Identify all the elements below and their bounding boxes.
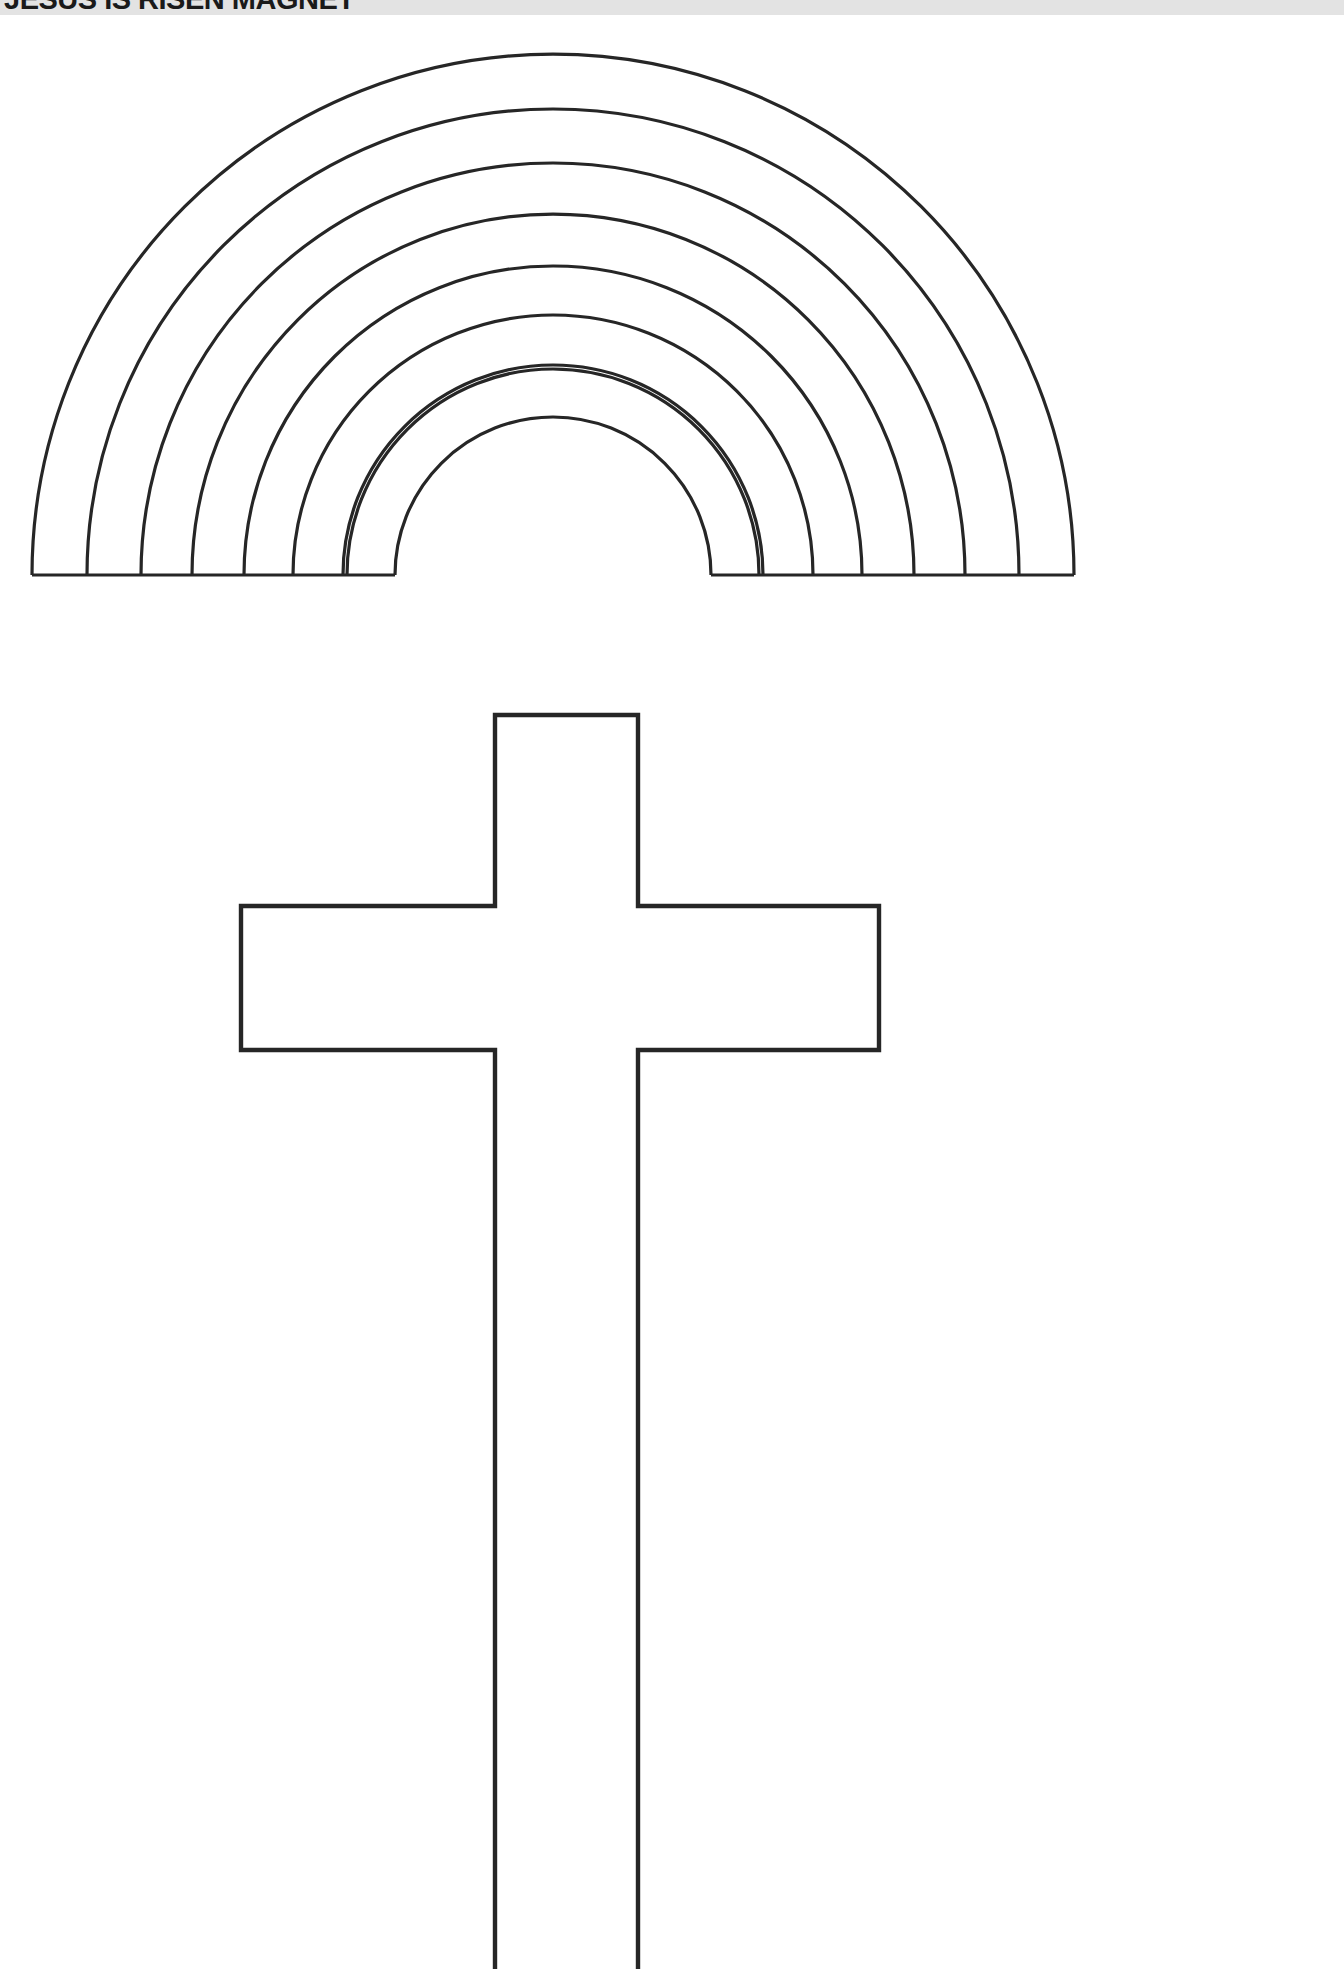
template-artwork <box>0 0 1344 1969</box>
page-root: JESUS IS RISEN MAGNET <box>0 0 1344 1969</box>
latin-cross-outline <box>241 715 879 1969</box>
rainbow-arc-8 <box>347 369 759 575</box>
rainbow-arc-5 <box>244 266 862 575</box>
rainbow-outline <box>32 54 1074 575</box>
cross-outline-path <box>241 715 879 1969</box>
rainbow-arc-2 <box>87 109 1019 575</box>
rainbow-arc-9 <box>395 417 711 575</box>
rainbow-arc-7 <box>343 365 763 575</box>
rainbow-arc-6 <box>293 315 813 575</box>
